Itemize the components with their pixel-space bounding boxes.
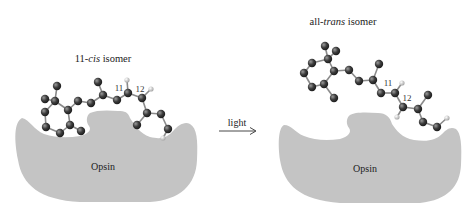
left-carbon-11-label: 11 (115, 83, 124, 93)
left-opsin-label: Opsin (91, 161, 115, 172)
right-opsin-label: Opsin (353, 163, 377, 174)
left-carbon-12-label: 12 (136, 84, 145, 94)
right-carbon-12-label: 12 (403, 93, 412, 103)
diagram-canvas (0, 0, 473, 219)
right-carbon-11-label: 11 (384, 78, 393, 88)
right-panel-title: all-trans isomer (310, 16, 377, 27)
light-arrow-label: light (228, 117, 246, 128)
opsin-protein-left (15, 110, 197, 202)
left-panel-title: 11-cis isomer (75, 53, 131, 64)
